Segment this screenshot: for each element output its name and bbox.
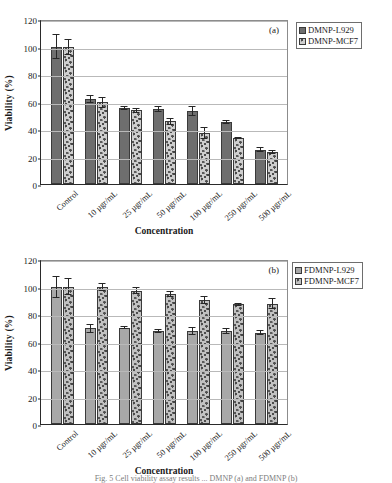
bar-wrapper bbox=[85, 21, 96, 184]
legend-item[interactable]: FDMNP-L929 bbox=[295, 265, 359, 275]
gridline bbox=[41, 399, 287, 400]
bar-wrapper bbox=[221, 21, 232, 184]
legend-item[interactable]: FDMNP-MCF7 bbox=[295, 276, 359, 286]
error-bar-stem bbox=[68, 39, 69, 56]
gridline bbox=[41, 159, 287, 160]
error-bar-cap-top bbox=[257, 330, 264, 331]
error-bar bbox=[223, 120, 230, 124]
figure-caption-partial: Fig. 5 Cell viability assay results ... … bbox=[0, 474, 392, 483]
bar-group bbox=[215, 261, 249, 424]
legend-swatch-icon bbox=[295, 278, 302, 285]
panel-b: Viability (%) (b) 020406080100120 Contro… bbox=[0, 240, 392, 480]
gridline bbox=[41, 371, 287, 372]
error-bar bbox=[87, 95, 94, 103]
bar[interactable] bbox=[187, 111, 198, 184]
bar[interactable] bbox=[233, 138, 244, 184]
bar-wrapper bbox=[233, 21, 244, 184]
bar-wrapper bbox=[119, 21, 130, 184]
error-bar-cap-bottom bbox=[269, 308, 276, 309]
y-tick-mark bbox=[38, 21, 41, 22]
bar[interactable] bbox=[85, 99, 96, 184]
bar[interactable] bbox=[51, 287, 62, 425]
error-bar-cap-top bbox=[155, 329, 162, 330]
bar[interactable] bbox=[153, 109, 164, 184]
bar[interactable] bbox=[153, 331, 164, 424]
bar-wrapper bbox=[119, 261, 130, 424]
error-bar-cap-bottom bbox=[133, 293, 140, 294]
error-bar bbox=[167, 118, 174, 125]
legend-label: DMNP-L929 bbox=[308, 25, 354, 35]
legend-item[interactable]: DMNP-MCF7 bbox=[299, 36, 358, 46]
bar[interactable] bbox=[267, 304, 278, 424]
x-tick-label: 500 µgr/mL bbox=[257, 189, 293, 223]
bar-wrapper bbox=[255, 21, 266, 184]
bar[interactable] bbox=[187, 331, 198, 424]
error-bar-cap-top bbox=[201, 296, 208, 297]
bar-group bbox=[147, 21, 181, 184]
error-bar-cap-bottom bbox=[99, 107, 106, 108]
bar[interactable] bbox=[97, 102, 108, 184]
x-tick: Control bbox=[44, 427, 78, 469]
bar[interactable] bbox=[233, 304, 244, 424]
y-tick-mark bbox=[38, 48, 41, 49]
panel-a-legend: DMNP-L929DMNP-MCF7 bbox=[296, 22, 362, 49]
error-bar-stem bbox=[56, 34, 57, 59]
bar[interactable] bbox=[131, 110, 142, 184]
error-bar-cap-top bbox=[87, 324, 94, 325]
legend-item[interactable]: DMNP-L929 bbox=[299, 25, 358, 35]
error-bar-cap-top bbox=[257, 147, 264, 148]
bar-wrapper bbox=[85, 261, 96, 424]
bar[interactable] bbox=[255, 150, 266, 184]
panel-a-bar-groups bbox=[41, 21, 287, 184]
error-bar-cap-bottom bbox=[53, 58, 60, 59]
error-bar bbox=[53, 276, 60, 298]
bar-wrapper bbox=[63, 21, 74, 184]
error-bar bbox=[121, 326, 128, 329]
bar[interactable] bbox=[51, 47, 62, 185]
error-bar-cap-bottom bbox=[223, 123, 230, 124]
error-bar-cap-bottom bbox=[53, 297, 60, 298]
bar[interactable] bbox=[199, 300, 210, 424]
error-bar-cap-bottom bbox=[65, 294, 72, 295]
bar[interactable] bbox=[255, 333, 266, 424]
bar[interactable] bbox=[63, 287, 74, 425]
error-bar-cap-bottom bbox=[65, 54, 72, 55]
bar[interactable] bbox=[267, 152, 278, 184]
error-bar-cap-top bbox=[99, 97, 106, 98]
error-bar-cap-top bbox=[65, 278, 72, 279]
error-bar bbox=[121, 106, 128, 110]
y-tick-mark bbox=[38, 398, 41, 399]
panel-b-x-tick-labels: Control10 µgr/mL25 µgr/mL50 µgr/mL100 µg… bbox=[40, 427, 288, 469]
bar[interactable] bbox=[97, 287, 108, 424]
bar[interactable] bbox=[119, 328, 130, 424]
error-bar-cap-top bbox=[269, 298, 276, 299]
legend-swatch-icon bbox=[295, 267, 302, 274]
bar-wrapper bbox=[165, 21, 176, 184]
bar[interactable] bbox=[221, 331, 232, 424]
panel-a-x-tick-labels: Control10 µgr/mL25 µgr/mL50 µgr/mL100 µg… bbox=[40, 187, 288, 229]
bar[interactable] bbox=[165, 294, 176, 424]
bar[interactable] bbox=[131, 291, 142, 424]
x-tick-label: Control bbox=[55, 429, 80, 453]
bar[interactable] bbox=[119, 108, 130, 184]
y-tick-mark bbox=[38, 131, 41, 132]
x-tick-label: Control bbox=[55, 189, 80, 213]
error-bar-cap-top bbox=[65, 39, 72, 40]
x-tick-label: 500 µgr/mL bbox=[257, 429, 293, 463]
x-tick: 50 µgr/mL bbox=[147, 427, 181, 469]
y-tick-mark bbox=[38, 158, 41, 159]
bar-wrapper bbox=[165, 261, 176, 424]
error-bar-cap-bottom bbox=[189, 115, 196, 116]
x-tick: 25 µgr/mL bbox=[113, 187, 147, 229]
legend-label: FDMNP-MCF7 bbox=[304, 276, 359, 286]
error-bar-cap-top bbox=[223, 328, 230, 329]
error-bar-stem bbox=[68, 278, 69, 295]
bar-wrapper bbox=[51, 261, 62, 424]
legend-label: DMNP-MCF7 bbox=[308, 36, 358, 46]
bar[interactable] bbox=[63, 47, 74, 184]
bar-wrapper bbox=[187, 21, 198, 184]
y-tick-mark bbox=[38, 103, 41, 104]
error-bar-cap-top bbox=[53, 276, 60, 277]
error-bar-cap-top bbox=[121, 106, 128, 107]
error-bar-cap-bottom bbox=[201, 138, 208, 139]
